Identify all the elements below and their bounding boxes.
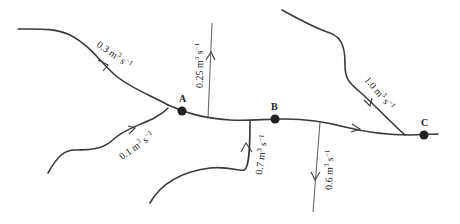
flow-label-abstraction-2: 0.6 m3 s−1 (322, 149, 335, 190)
svg-text:1.0 m3 s−1: 1.0 m3 s−1 (362, 74, 397, 113)
abstraction-1-line (208, 23, 212, 119)
node-a (178, 107, 187, 116)
abstraction-2-line (313, 122, 320, 212)
svg-text:0.7 m3 s−1: 0.7 m3 s−1 (252, 133, 270, 175)
node-b-label: B (271, 101, 278, 112)
flow-label-abstraction-1: 0.25 m3 s−1 (193, 42, 205, 88)
node-b (271, 115, 280, 124)
tributary-s (150, 121, 250, 203)
node-a-label: A (179, 93, 187, 104)
node-c (420, 131, 429, 140)
node-c-label: C (421, 117, 428, 128)
svg-text:0.6 m3 s−1: 0.6 m3 s−1 (322, 149, 335, 190)
tributary-ne (282, 10, 405, 135)
tributary-nw (18, 29, 168, 105)
tributary-nw-arrow (98, 60, 108, 71)
svg-text:0.25 m3 s−1: 0.25 m3 s−1 (193, 42, 205, 88)
river-network-diagram: A B C 0.3 m3 s−1 0.1 m3 s−1 0.25 m3 s−1 … (0, 0, 460, 224)
flow-label-s: 0.7 m3 s−1 (252, 133, 270, 175)
svg-text:0.3 m3 s−1: 0.3 m3 s−1 (95, 38, 135, 71)
flow-label-ne: 1.0 m3 s−1 (362, 74, 397, 113)
tributary-sw (48, 108, 168, 173)
flow-label-nw: 0.3 m3 s−1 (95, 38, 135, 71)
